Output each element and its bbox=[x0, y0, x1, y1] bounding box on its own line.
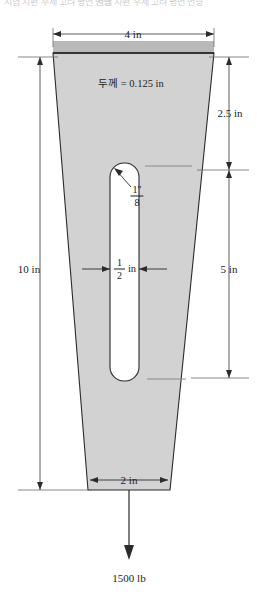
fraction-stack: 1″ 8 bbox=[130, 185, 143, 208]
clamped-end-band bbox=[53, 41, 214, 53]
arrowhead-down-icon bbox=[37, 482, 43, 490]
arrowhead-up-icon bbox=[37, 57, 43, 65]
load-arrowhead-icon bbox=[124, 545, 134, 560]
thickness-label: 두께 = 0.125 in bbox=[98, 79, 164, 90]
arrowhead-down-icon bbox=[226, 370, 232, 378]
arrowhead-right-icon bbox=[206, 31, 214, 37]
fillet-radius-label: 1″ 8 bbox=[130, 185, 143, 208]
upper-segment-label: 2.5 in bbox=[217, 108, 242, 119]
arrowhead-down-icon bbox=[226, 162, 232, 170]
fraction-numerator: 1 bbox=[115, 258, 124, 269]
arrowhead-up-icon bbox=[226, 57, 232, 65]
load-magnitude-label: 1500 lb bbox=[112, 573, 145, 584]
top-width-label: 4 in bbox=[125, 29, 142, 40]
arrowhead-left-icon bbox=[53, 31, 61, 37]
fraction-stack: 1 2 bbox=[114, 258, 125, 281]
tapered-plate-diagram bbox=[0, 0, 257, 602]
lower-segment-label: 5 in bbox=[221, 264, 238, 275]
fraction-denominator: 2 bbox=[115, 270, 124, 281]
fraction-numerator: 1″ bbox=[130, 185, 143, 196]
total-height-label: 10 in bbox=[18, 264, 40, 275]
slot-width-label: 1 2 in bbox=[114, 258, 136, 281]
fraction-denominator: 8 bbox=[132, 197, 141, 208]
bottom-width-label: 2 in bbox=[121, 475, 138, 486]
arrowhead-up-icon bbox=[226, 170, 232, 178]
slot-width-unit: in bbox=[128, 264, 136, 275]
